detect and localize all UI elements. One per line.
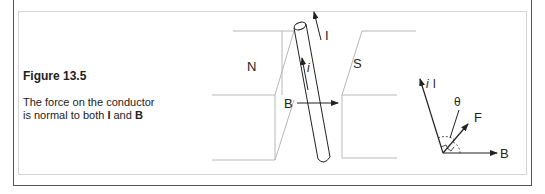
field-vector-label: B <box>500 146 509 161</box>
north-pole-block <box>212 31 294 160</box>
il-label-i: i <box>426 77 429 91</box>
il-vector-arrow-icon <box>420 79 443 153</box>
diagram-canvas: I i N S B i l θ F B <box>0 0 545 194</box>
vector-diagram: i l θ F B <box>420 77 509 161</box>
force-label: F <box>474 110 482 125</box>
north-pole-label: N <box>247 59 256 74</box>
current-label: I <box>325 28 329 43</box>
current-arrow-icon <box>314 12 321 40</box>
force-arrow-icon <box>443 124 468 153</box>
normal-line <box>450 110 459 138</box>
field-label: B <box>284 96 293 111</box>
south-pole-block <box>342 31 416 158</box>
south-pole-label: S <box>353 56 362 71</box>
il-label-l: l <box>433 77 436 91</box>
internal-current-label: i <box>307 61 310 75</box>
theta-label: θ <box>454 95 461 109</box>
